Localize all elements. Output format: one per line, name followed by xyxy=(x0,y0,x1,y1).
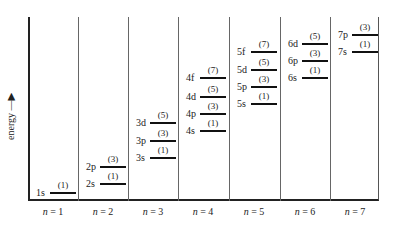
degeneracy-label: (5) xyxy=(302,32,328,41)
orbital-label: 5s xyxy=(237,99,246,109)
orbital-label: 3d xyxy=(136,118,146,128)
orbital-label: 4p xyxy=(186,109,196,119)
column-separator xyxy=(128,17,129,201)
energy-level-line xyxy=(150,140,176,142)
degeneracy-label: (3) xyxy=(200,102,226,111)
energy-level-line xyxy=(302,43,328,45)
column-separator xyxy=(330,17,331,201)
energy-level-line xyxy=(150,122,176,124)
orbital-label: 2s xyxy=(86,179,95,189)
degeneracy-label: (1) xyxy=(200,119,226,128)
degeneracy-label: (1) xyxy=(251,92,277,101)
degeneracy-label: (3) xyxy=(302,49,328,58)
energy-level-line xyxy=(251,86,277,88)
degeneracy-label: (1) xyxy=(352,40,378,49)
energy-level-line xyxy=(200,77,226,79)
shell-label: n = 3 xyxy=(128,206,178,217)
degeneracy-label: (3) xyxy=(150,129,176,138)
degeneracy-label: (5) xyxy=(251,58,277,67)
energy-level-line xyxy=(302,77,328,79)
orbital-label: 7s xyxy=(338,47,347,57)
shell-label: n = 6 xyxy=(280,206,330,217)
y-axis-label: energy —▶ xyxy=(5,93,16,140)
orbital-label: 1s xyxy=(36,188,45,198)
energy-level-line xyxy=(200,96,226,98)
degeneracy-label: (7) xyxy=(251,40,277,49)
shell-label: n = 2 xyxy=(78,206,128,217)
energy-level-line xyxy=(100,183,126,185)
column-separator xyxy=(178,17,179,201)
shell-label: n = 7 xyxy=(330,206,380,217)
degeneracy-label: (5) xyxy=(150,111,176,120)
orbital-label: 5d xyxy=(237,65,247,75)
energy-level-line xyxy=(200,130,226,132)
degeneracy-label: (3) xyxy=(251,75,277,84)
degeneracy-label: (1) xyxy=(302,66,328,75)
orbital-label: 4d xyxy=(186,92,196,102)
orbital-label: 6p xyxy=(288,56,298,66)
column-separator xyxy=(78,17,79,201)
degeneracy-label: (3) xyxy=(352,23,378,32)
degeneracy-label: (5) xyxy=(200,85,226,94)
energy-level-line xyxy=(251,51,277,53)
orbital-label: 4s xyxy=(186,126,195,136)
degeneracy-label: (7) xyxy=(200,66,226,75)
shell-label: n = 4 xyxy=(178,206,228,217)
orbital-label: 5p xyxy=(237,82,247,92)
shell-label: n = 1 xyxy=(28,206,78,217)
energy-level-line xyxy=(302,60,328,62)
orbital-label: 3p xyxy=(136,136,146,146)
orbital-label: 3s xyxy=(136,153,145,163)
energy-level-line xyxy=(251,103,277,105)
degeneracy-label: (3) xyxy=(100,155,126,164)
column-separator xyxy=(280,17,281,201)
energy-level-line xyxy=(352,51,378,53)
energy-level-line xyxy=(352,34,378,36)
orbital-label: 7p xyxy=(338,30,348,40)
degeneracy-label: (1) xyxy=(150,146,176,155)
orbital-label: 4f xyxy=(186,73,194,83)
orbital-label: 5f xyxy=(237,47,245,57)
energy-level-line xyxy=(251,69,277,71)
shell-label: n = 5 xyxy=(229,206,279,217)
degeneracy-label: (1) xyxy=(50,181,76,190)
energy-level-line xyxy=(150,157,176,159)
orbital-label: 6d xyxy=(288,39,298,49)
column-separator xyxy=(229,17,230,201)
energy-level-line xyxy=(50,192,76,194)
orbital-label: 2p xyxy=(86,162,96,172)
orbital-label: 6s xyxy=(288,73,297,83)
degeneracy-label: (1) xyxy=(100,172,126,181)
energy-level-line xyxy=(200,113,226,115)
energy-level-line xyxy=(100,166,126,168)
arrow-up-icon: —▶ xyxy=(5,93,16,111)
